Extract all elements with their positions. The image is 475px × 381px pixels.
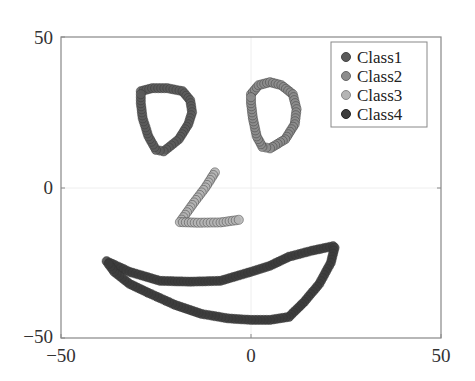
data-point [246,93,255,102]
legend-label: Class4 [357,105,403,124]
data-points [102,78,339,325]
series-class4 [102,242,339,325]
data-point [104,259,113,268]
x-tick-label: −50 [46,345,76,366]
y-tick-labels: −50 0 50 [23,27,53,347]
legend: Class1 Class2 Class3 Class4 [331,42,427,127]
series-class1 [136,84,197,156]
legend-label: Class2 [357,67,402,86]
x-tick-labels: −50 0 50 [46,345,450,366]
legend-marker-icon [342,110,351,119]
legend-label: Class1 [357,48,402,67]
data-point [136,90,145,99]
legend-label: Class3 [357,86,402,105]
y-tick-label: −50 [23,326,53,347]
x-tick-label: 50 [432,345,451,366]
data-point [234,215,243,224]
legend-marker-icon [342,53,351,62]
y-tick-label: 0 [44,177,54,198]
x-tick-label: 0 [246,345,256,366]
y-tick-label: 50 [34,27,53,48]
scatter-plot: −50 0 50 −50 0 50 Class1 Class2 Class3 C… [0,0,475,381]
legend-marker-icon [342,91,351,100]
series-class3 [175,168,243,228]
legend-marker-icon [342,72,351,81]
series-class2 [246,78,301,153]
